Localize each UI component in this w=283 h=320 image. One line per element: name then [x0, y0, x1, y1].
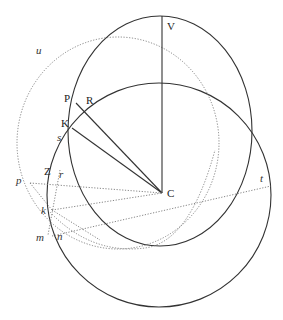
label-V: V [167, 20, 175, 32]
dotted-arc-k [48, 150, 215, 249]
label-t: t [260, 172, 264, 184]
label-P: P [64, 92, 70, 104]
label-R: R [86, 94, 94, 106]
dotted-circle-u [17, 37, 219, 249]
label-C: C [167, 187, 174, 199]
label-m: m [36, 231, 44, 243]
lower-solid-circle [47, 83, 271, 307]
label-r: r [59, 168, 64, 180]
label-u: u [36, 44, 42, 56]
dotted-line-kC [52, 193, 162, 210]
upper-solid-circle [68, 16, 252, 246]
line-PC [76, 103, 162, 193]
line-KC [72, 128, 162, 193]
label-K: K [61, 117, 69, 129]
label-k: k [41, 204, 47, 216]
label-Z: Z [44, 165, 51, 177]
label-p: p [15, 174, 22, 186]
label-s: s [57, 131, 61, 143]
dotted-line-mt [52, 186, 271, 236]
label-n: n [57, 230, 63, 242]
geometric-diagram: V P R K s u Z r p k m n C t [0, 0, 283, 320]
dotted-line-pC [30, 183, 162, 193]
